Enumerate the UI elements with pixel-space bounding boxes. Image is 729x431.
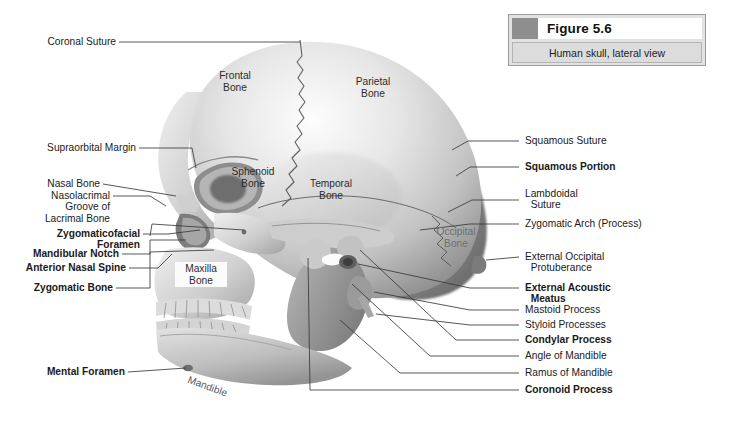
label-coronal-suture: Coronal Suture xyxy=(10,36,116,47)
bone-label-sphenoid: Sphenoid Bone xyxy=(222,166,284,189)
bone-label-occipital: Occipital Bone xyxy=(425,226,487,249)
figure-title-bar: Figure 5.6 xyxy=(512,18,702,39)
figure-caption: Human skull, lateral view xyxy=(549,47,665,59)
label-supraorbital-margin: Supraorbital Margin xyxy=(6,142,136,153)
bone-label-parietal: Parietal Bone xyxy=(344,76,402,99)
figure-number: Figure 5.6 xyxy=(538,21,612,36)
label-mandibular-notch: Mandibular Notch xyxy=(4,248,119,259)
label-squamous-suture: Squamous Suture xyxy=(525,135,607,146)
label-ramus-of-mandible: Ramus of Mandible xyxy=(525,367,613,378)
label-nasal-bone: Nasal Bone xyxy=(10,178,100,189)
label-lambdoidal-suture: Lambdoidal Suture xyxy=(525,188,578,211)
label-angle-of-mandible: Angle of Mandible xyxy=(525,350,607,361)
label-external-occipital-protuberance: External Occipital Protuberance xyxy=(525,251,604,274)
bone-label-maxilla: Maxilla Bone xyxy=(175,262,227,287)
figure-canvas: Frontal Bone Parietal Bone Sphenoid Bone… xyxy=(0,0,729,431)
label-anterior-nasal-spine: Anterior Nasal Spine xyxy=(4,262,126,273)
label-nasolacrimal-groove: Nasolacrimal Groove of Lacrimal Bone xyxy=(6,190,110,224)
label-mastoid-process: Mastoid Process xyxy=(525,304,600,315)
label-mental-foramen: Mental Foramen xyxy=(4,366,125,377)
label-styloid-processes: Styloid Processes xyxy=(525,319,606,330)
label-external-acoustic-meatus: External Acoustic Meatus xyxy=(525,282,611,305)
label-coronoid-process: Coronoid Process xyxy=(525,384,613,395)
bone-label-temporal: Temporal Bone xyxy=(300,178,362,201)
label-zygomatic-arch: Zygomatic Arch (Process) xyxy=(525,218,642,229)
label-squamous-portion: Squamous Portion xyxy=(525,161,616,172)
bone-label-frontal: Frontal Bone xyxy=(206,70,264,93)
figure-color-swatch xyxy=(512,18,538,39)
figure-subtitle-bar: Human skull, lateral view xyxy=(512,42,702,63)
label-condylar-process: Condylar Process xyxy=(525,334,612,345)
label-zygomatic-bone: Zygomatic Bone xyxy=(4,282,113,293)
figure-caption-box: Figure 5.6 Human skull, lateral view xyxy=(508,14,706,66)
